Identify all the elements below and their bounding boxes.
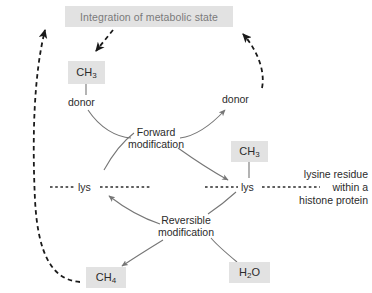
residue-annotation-line3: histone protein bbox=[258, 194, 368, 206]
methyl-on-lysine-label: CH3 bbox=[239, 145, 259, 159]
residue-annotation-line1: lysine residue bbox=[258, 168, 368, 180]
donor-right-label: donor bbox=[222, 93, 249, 105]
arrow-reverse-from-methyl-lysine bbox=[208, 192, 236, 214]
arrow-methane-output bbox=[122, 240, 163, 266]
dashed-arrow-title-to-methyl-donor bbox=[96, 30, 113, 51]
reversible-modification-line1: Reversible bbox=[150, 214, 222, 226]
forward-modification-line1: Forward bbox=[120, 126, 192, 138]
arrow-water-input bbox=[211, 238, 237, 262]
reversible-modification-line2: modification bbox=[144, 226, 228, 238]
methyl-donor-label: CH3 bbox=[76, 66, 96, 80]
methyl-on-lysine-node: CH3 bbox=[231, 141, 268, 162]
donor-left-label: donor bbox=[68, 96, 95, 108]
water-substrate-label: H2O bbox=[239, 266, 260, 280]
dashed-arrow-donor-to-title bbox=[243, 34, 263, 88]
methyl-donor-node: CH3 bbox=[68, 61, 105, 84]
integration-title-label: Integration of metabolic state bbox=[80, 11, 218, 23]
water-substrate-node: H2O bbox=[229, 262, 270, 283]
integration-title-box: Integration of metabolic state bbox=[65, 6, 233, 27]
lysine-right-label: lys bbox=[241, 181, 254, 193]
residue-annotation-line2: within a bbox=[258, 181, 368, 193]
methane-product-label: CH4 bbox=[96, 271, 116, 285]
methylation-cycle-diagram: Integration of metabolic state CH3 CH3 C… bbox=[0, 0, 372, 293]
methane-product-node: CH4 bbox=[86, 267, 126, 288]
forward-modification-line2: modification bbox=[114, 138, 198, 150]
arrow-forward-to-methylated-lysine bbox=[178, 148, 228, 180]
lysine-left-label: lys bbox=[78, 181, 91, 193]
